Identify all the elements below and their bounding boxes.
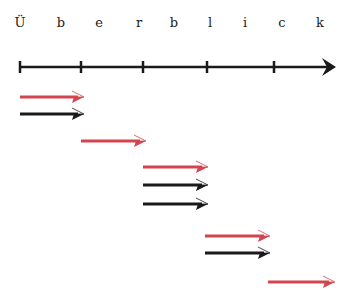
black-arrowhead-icon <box>258 253 270 259</box>
timeline-diagram <box>0 0 355 303</box>
red-arrowhead-icon <box>134 141 146 147</box>
red-arrowhead-icon <box>196 167 208 173</box>
black-arrowhead-icon <box>196 204 208 210</box>
red-arrowhead-icon <box>72 97 84 103</box>
red-arrowhead-icon <box>323 282 335 288</box>
red-arrowhead-icon <box>258 236 270 242</box>
black-arrowhead-icon <box>72 114 84 120</box>
black-arrowhead-icon <box>196 185 208 191</box>
